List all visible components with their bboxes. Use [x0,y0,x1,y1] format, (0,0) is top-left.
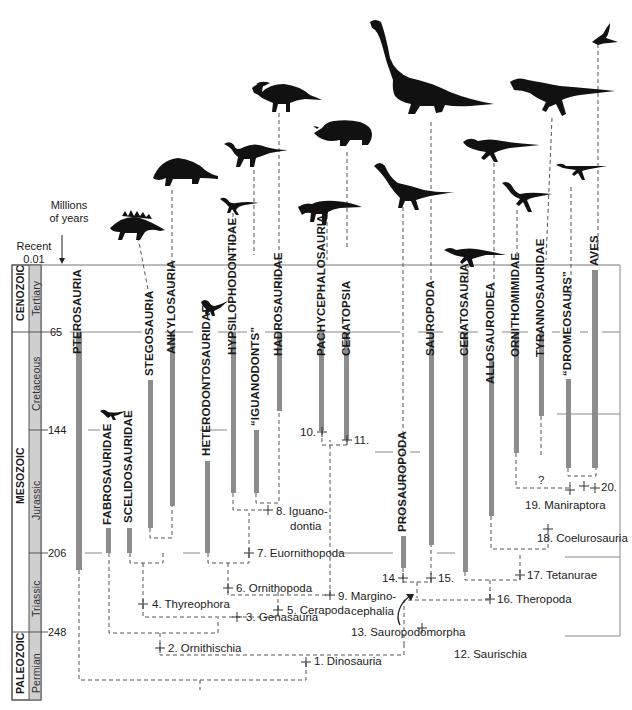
pachycephalosaur-icon [298,201,362,225]
taxon-fabrosauridae: FABROSAURIDAE [101,423,113,525]
clade-19-label: 19. Maniraptora [525,499,606,511]
hypsilophodont-icon [220,198,258,215]
clade-4-label: 4. Thyreophora [152,598,230,610]
ankylosaur-icon [153,158,218,186]
era-mesozoic: MESOZOIC [14,447,26,504]
clade-17-label: 17. Tetanurae [527,569,597,581]
taxon-ornithomimidae: ORNITHOMIMIDAE [509,253,521,357]
clade-10-label: 10. [300,426,316,438]
stegosaur-icon [110,210,165,240]
ornithomimid-icon [502,182,552,212]
clade-8-line1: 8. Iguano- [276,504,328,519]
hadrosaur-icon [252,82,322,112]
taxon-allosauroidea: ALLOSAUROIDEA [484,282,496,384]
sauropod-icon [370,20,494,114]
clade-9-line2: cephalia [338,604,396,619]
taxon-sauropoda: SAUROPODA [424,280,436,356]
period-permian: Permian [30,653,42,693]
clade-7-label: 7. Euornithopoda [257,547,345,559]
taxon-ankylosauria: ANKYLOSAURIA [165,260,177,354]
clade-14-label: 14. [382,572,398,584]
taxon-hypsilophodontidae: HYPSILOPHODONTIDAE [226,218,238,355]
taxon-ceratosauria: CERATOSAURIA [458,263,470,356]
clade-18-label: 18. Coelurosauria [537,532,628,544]
prosauropod-icon [374,163,455,210]
clade-2-label: 2. Ornithischia [168,642,242,654]
taxon-dromeosaurs: “DROMEOSAURS” [561,271,573,376]
era-cenozoic: CENOZOIC [14,265,26,321]
taxon-stegosauria: STEGOSAURIA [143,291,155,376]
taxon-heterodontosauridae: HETERODONTOSAURIDAE [200,305,212,456]
period-cretaceous: Cretaceous [30,356,42,411]
dinosaur-cladogram: Millions of years Recent 0.01 65 144 206… [0,0,632,710]
clade-8-line2: dontia [276,519,328,534]
clade-9-line1: 9. Margino- [338,589,396,604]
iguanodont-icon [224,142,288,167]
period-triassic: Triassic [30,580,42,617]
period-jurassic: Jurassic [30,481,42,520]
clade-15-label: 15. [438,572,454,584]
tyrannosaur-icon [510,78,615,116]
taxon-pterosauria: PTEROSAURIA [71,269,83,354]
clade-20-label: 20. [601,481,617,493]
clade-11-label: 11. [354,434,369,446]
uncertain-mark: ? [538,474,544,486]
dromaeosaur-icon [556,164,607,180]
period-tertiary: Tertiary [30,281,42,316]
clade-1-label: 1. Dinosauria [314,655,382,667]
bird-icon [592,23,618,45]
clade-8-label: 8. Iguano- dontia [276,504,328,534]
taxon-ceratopsia: CERATOPSIA [340,281,352,356]
allosaur-icon [463,139,540,162]
clade-9-label: 9. Margino- cephalia [338,589,396,619]
taxon-tyrannosauridae: TYRANNOSAURIDAE [534,239,546,357]
taxon-hadrosauridae: HADROSAURIDAE [272,252,284,356]
ceratosaur-icon [444,248,506,267]
clade-12-label: 12. Saurischia [454,648,527,660]
clade-16-label: 16. Theropoda [497,593,572,605]
clade-6-label: 6. Ornithopoda [236,582,312,594]
taxon-scelidosauridae: SCELIDOSAURIDAE [122,410,134,523]
taxon-iguanodonts: “IGUANODONTS” [249,327,261,426]
taxon-aves: AVES [588,235,600,266]
taxon-prosauropoda: PROSAUROPODA [396,431,408,532]
ceratopsian-icon [313,120,372,146]
clade-13-label: 13. Sauropodomorpha [351,626,465,638]
era-paleozoic: PALEOZOIC [14,633,26,694]
taxon-pachycephalosauria: PACHYCEPHALOSAURIA [315,214,327,356]
